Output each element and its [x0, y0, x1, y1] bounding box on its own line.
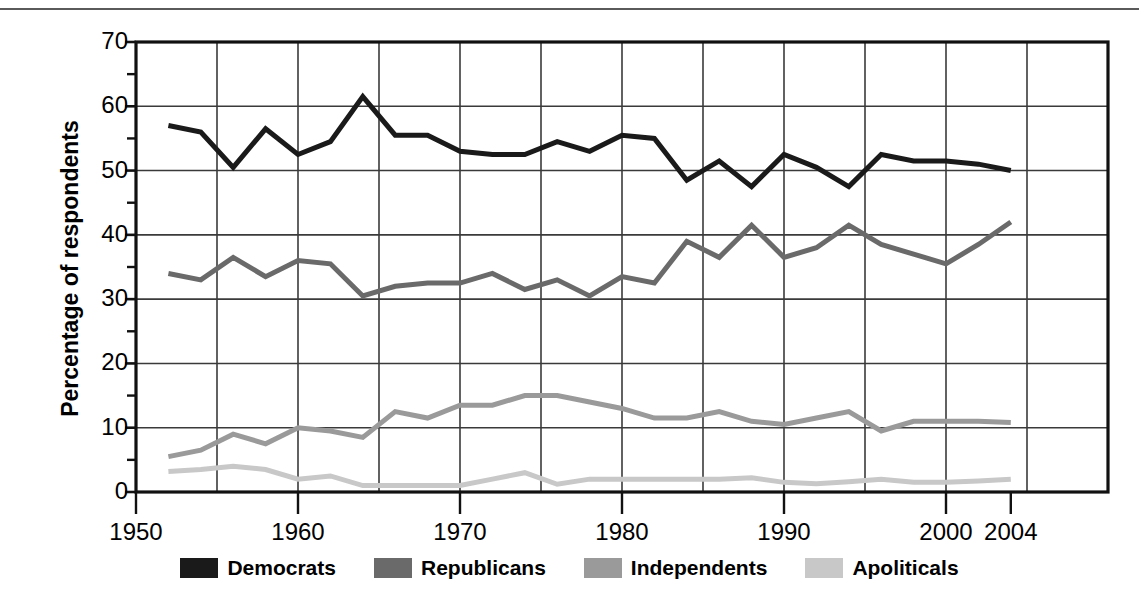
legend-item[interactable]: Independents [584, 556, 768, 580]
x-axis-tick-label: 2004 [984, 518, 1037, 546]
x-axis-tick-label: 1990 [757, 518, 810, 546]
legend-swatch-icon [180, 558, 218, 578]
x-axis-tick-labels: 1950196019701980199020002004 [0, 0, 1139, 613]
legend-label: Apoliticals [852, 556, 958, 580]
x-axis-tick-label: 1950 [109, 518, 162, 546]
legend-item[interactable]: Apoliticals [805, 556, 958, 580]
legend-item[interactable]: Republicans [374, 556, 546, 580]
legend-swatch-icon [374, 558, 412, 578]
legend-label: Independents [631, 556, 768, 580]
x-axis-tick-label: 1980 [595, 518, 648, 546]
x-axis-tick-label: 1960 [271, 518, 324, 546]
legend-item[interactable]: Democrats [180, 556, 336, 580]
legend-swatch-icon [584, 558, 622, 578]
x-axis-tick-label: 1970 [433, 518, 486, 546]
chart-root: Percentage of respondents 01020304050607… [0, 0, 1139, 613]
legend-label: Republicans [421, 556, 546, 580]
x-axis-tick-label: 2000 [919, 518, 972, 546]
legend-label: Democrats [227, 556, 336, 580]
legend-swatch-icon [805, 558, 843, 578]
chart-legend: DemocratsRepublicansIndependentsApolitic… [0, 556, 1139, 580]
